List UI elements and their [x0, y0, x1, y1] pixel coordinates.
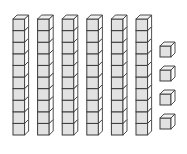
base-ten-blocks-diagram [0, 0, 187, 154]
tens-rod [13, 15, 29, 135]
tens-rod [87, 15, 103, 135]
tens-rod [38, 15, 54, 135]
unit-cube [160, 90, 175, 105]
tens-rod [136, 15, 152, 135]
unit-cube [160, 42, 175, 57]
unit-cube [160, 66, 175, 81]
tens-rod [111, 15, 127, 135]
unit-cube [160, 114, 175, 129]
tens-rod [62, 15, 78, 135]
